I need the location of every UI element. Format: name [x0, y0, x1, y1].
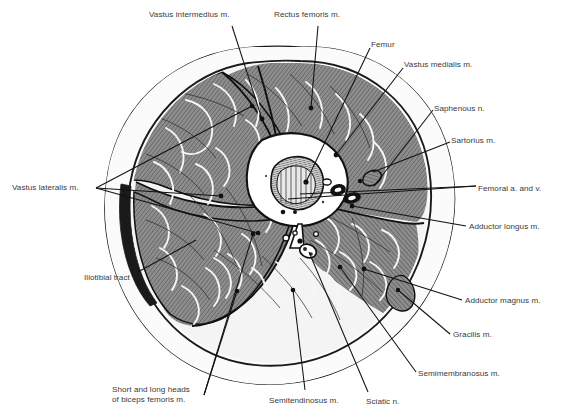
label-iliotibial-tract: Iliotibial tract: [84, 273, 130, 283]
thigh-cross-section-figure: Vastus intermedius m.Rectus femoris m.Fe…: [0, 0, 563, 417]
label-sciatic-nerve: Sciatic n.: [366, 397, 399, 407]
label-gracilis: Gracilis m.: [453, 330, 492, 340]
label-semitendinosus: Semitendinosus m.: [269, 396, 339, 406]
label-vastus-intermedius: Vastus intermedius m.: [149, 10, 230, 20]
anatomy-illustration: [0, 0, 563, 417]
label-saphenous-nerve: Saphenous n.: [434, 104, 485, 114]
label-adductor-longus: Adductor longus m.: [469, 222, 540, 232]
label-femoral-vessels: Femoral a. and v.: [478, 184, 541, 194]
saphenous-nerve-marker: [358, 179, 362, 183]
label-vastus-medialis: Vastus medialis m.: [404, 60, 472, 70]
label-rectus-femoris: Rectus femoris m.: [274, 10, 340, 20]
label-semimembranosus: Semimembranosus m.: [418, 369, 500, 379]
label-vastus-lateralis: Vastus lateralis m.: [12, 183, 78, 193]
label-adductor-magnus: Adductor magnus m.: [465, 296, 541, 306]
label-sartorius: Sartorius m.: [451, 136, 495, 146]
label-biceps-femoris: Short and long headsof biceps femoris m.: [112, 385, 190, 406]
label-femur: Femur: [371, 40, 395, 50]
